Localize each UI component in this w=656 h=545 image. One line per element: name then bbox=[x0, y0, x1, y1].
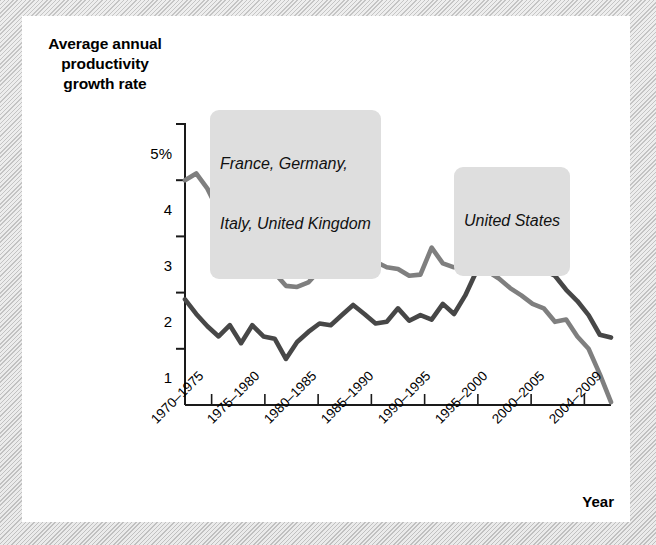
chart-plot-area: Average annual productivity growth rate … bbox=[22, 16, 630, 522]
series-callout-europe: France, Germany, Italy, United Kingdom bbox=[210, 110, 381, 279]
series-callout-united-states: United States bbox=[454, 167, 570, 276]
y-tick-label-3: 3 bbox=[130, 257, 172, 274]
y-axis-title-line-2: productivity bbox=[30, 54, 180, 74]
y-axis-title-line-1: Average annual bbox=[30, 34, 180, 54]
y-axis-title-line-3: growth rate bbox=[30, 74, 180, 94]
x-axis-title: Year bbox=[582, 493, 614, 510]
callout-us-line-1: United States bbox=[464, 211, 560, 231]
callout-europe-line-1: France, Germany, bbox=[220, 154, 371, 174]
y-tick-label-5: 5% bbox=[130, 145, 172, 162]
y-tick-label-4: 4 bbox=[130, 201, 172, 218]
figure-card: Average annual productivity growth rate … bbox=[22, 16, 630, 522]
y-tick-label-1: 1 bbox=[130, 369, 172, 386]
y-tick-label-2: 2 bbox=[130, 313, 172, 330]
y-axis-title: Average annual productivity growth rate bbox=[30, 34, 180, 93]
callout-europe-line-2: Italy, United Kingdom bbox=[220, 214, 371, 234]
